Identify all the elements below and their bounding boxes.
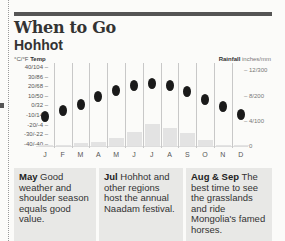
page-border: [8, 0, 9, 241]
section-title: When to Go: [14, 18, 116, 37]
month-divider: [196, 63, 197, 148]
month-label: N: [216, 151, 230, 158]
rainfall-bar: [74, 143, 89, 146]
city-title: Hohhot: [14, 37, 63, 53]
month-label: M: [109, 151, 123, 158]
month-label: J: [38, 151, 52, 158]
temp-dot: [166, 80, 174, 91]
month-divider: [178, 63, 179, 148]
temp-dot: [130, 80, 138, 91]
month-label: O: [198, 151, 212, 158]
rain-axis-title: Rainfall inches/mm: [219, 56, 271, 62]
temp-dot: [112, 85, 120, 96]
rainfall-bar: [91, 142, 106, 146]
temp-dot: [77, 99, 85, 110]
rainfall-bar: [127, 132, 142, 146]
temp-tick: 10/50 –: [8, 93, 48, 99]
temp-dot: [183, 86, 191, 97]
month-label: S: [180, 151, 194, 158]
rain-tick: – 4/100: [244, 118, 264, 124]
temp-tick: -30/-22 –: [8, 131, 48, 137]
temp-tick: -20/-4 –: [8, 122, 48, 128]
month-divider: [143, 63, 144, 148]
panel-may: May Good weather and shoulder season equ…: [14, 168, 96, 241]
temp-dot: [41, 111, 49, 122]
temp-dot: [201, 94, 209, 105]
rainfall-bar: [145, 124, 160, 146]
rainfall-bar: [109, 138, 124, 146]
month-label: J: [145, 151, 159, 158]
month-label: F: [56, 151, 70, 158]
month-label: J: [127, 151, 141, 158]
temp-dot: [219, 101, 227, 112]
temp-tick: 20/68 –: [8, 83, 48, 89]
rainfall-bar: [38, 145, 53, 146]
rainfall-bar: [163, 128, 178, 146]
month-divider: [72, 63, 73, 148]
rainfall-bar: [234, 145, 249, 146]
month-divider: [214, 63, 215, 148]
temp-tick: 40/104 –: [8, 64, 48, 70]
month-divider: [89, 63, 90, 148]
month-label: M: [74, 151, 88, 158]
rainfall-bar: [180, 133, 195, 146]
month-divider: [125, 63, 126, 148]
rainfall-bar: [56, 145, 71, 146]
rainfall-bar: [216, 145, 231, 146]
rainfall-bar: [198, 140, 213, 146]
panel-jul: Jul Hohhot and other regions host the an…: [99, 168, 183, 241]
month-divider: [161, 63, 162, 148]
month-label: A: [91, 151, 105, 158]
page-marker: [0, 103, 4, 108]
temp-dot: [59, 105, 67, 116]
month-label: A: [163, 151, 177, 158]
temp-dot: [148, 78, 156, 89]
month-divider: [54, 63, 55, 148]
month-label: D: [234, 151, 248, 158]
temp-axis-title: °C/°F Temp: [14, 56, 46, 62]
temp-tick: 30/86 –: [8, 74, 48, 80]
month-divider: [232, 63, 233, 148]
rain-tick: – 8/200: [244, 93, 264, 99]
panel-aug-sep: Aug & Sep The best time to see the grass…: [186, 168, 272, 241]
rain-tick: – 12/300: [244, 67, 267, 73]
temp-dot: [237, 109, 245, 120]
month-divider: [107, 63, 108, 148]
section-rule: [14, 12, 272, 16]
temp-tick: 0/32 –: [8, 102, 48, 108]
temp-dot: [94, 91, 102, 102]
